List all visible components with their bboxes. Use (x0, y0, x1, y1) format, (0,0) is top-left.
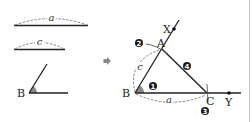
ray-bx (135, 20, 179, 93)
point-y (227, 91, 231, 95)
label-a-point: A (156, 37, 166, 50)
given-segment-c: c (14, 36, 65, 50)
step-marker-1: 1 (149, 82, 157, 91)
constructed-triangle: X A B C Y c a 1 2 3 4 (122, 20, 241, 116)
label-side-c: c (137, 61, 143, 72)
step-marker-2: 2 (135, 39, 143, 48)
step-marker-3: 3 (201, 107, 209, 116)
svg-text:3: 3 (203, 108, 208, 116)
svg-text:2: 2 (137, 40, 142, 48)
label-b-point: B (122, 87, 130, 100)
label-a: a (49, 12, 55, 23)
side-ac (162, 49, 207, 93)
label-b: B (17, 87, 25, 100)
label-y: Y (224, 96, 233, 109)
svg-text:4: 4 (185, 63, 190, 71)
triangle-construction-diagram: a c B X A (0, 0, 252, 122)
svg-text:1: 1 (151, 83, 156, 91)
given-segment-a: a (14, 12, 88, 26)
given-angle-b: B (17, 64, 68, 100)
step-marker-4: 4 (183, 62, 191, 71)
label-c: c (37, 36, 43, 47)
label-x: X (163, 23, 171, 36)
label-side-a: a (166, 94, 172, 105)
label-c-point: C (206, 95, 214, 108)
right-arrow-icon (104, 57, 112, 65)
point-x (172, 27, 176, 31)
